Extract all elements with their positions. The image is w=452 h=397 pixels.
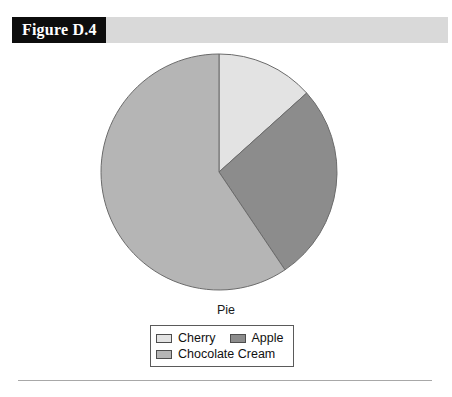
chart-title: Pie — [0, 303, 452, 318]
legend-block: Pie Cherry Apple Chocolate Cream — [0, 303, 452, 318]
legend-item-chocolate-cream[interactable]: Chocolate Cream — [156, 347, 275, 361]
pie-chart-svg — [0, 48, 452, 298]
legend-item-cherry[interactable]: Cherry — [156, 331, 216, 345]
legend-label-apple: Apple — [252, 331, 284, 345]
figure-number-label: Figure D.4 — [22, 22, 97, 38]
bottom-divider — [18, 380, 432, 381]
legend-swatch-apple-icon — [230, 334, 246, 343]
legend-swatch-cherry-icon — [156, 334, 172, 343]
figure-number-tab: Figure D.4 — [12, 17, 106, 43]
legend-box: Cherry Apple Chocolate Cream — [150, 325, 294, 367]
pie-chart-area — [0, 48, 452, 298]
legend-item-apple[interactable]: Apple — [230, 331, 284, 345]
legend-swatch-chocolate-cream-icon — [156, 350, 172, 359]
figure-header: Figure D.4 — [12, 17, 448, 43]
legend-label-chocolate-cream: Chocolate Cream — [178, 347, 275, 361]
legend-label-cherry: Cherry — [178, 331, 216, 345]
legend-row-top: Cherry Apple — [156, 330, 288, 346]
legend-row-bottom: Chocolate Cream — [156, 346, 288, 362]
pie-slices-group — [101, 54, 337, 290]
figure-page: Figure D.4 Pie Cherry Apple — [0, 0, 452, 397]
